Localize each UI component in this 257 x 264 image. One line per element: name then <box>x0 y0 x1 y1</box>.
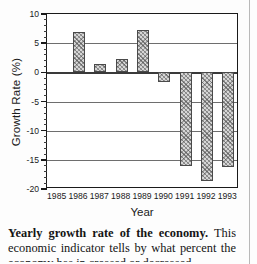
y-axis-minor-tick <box>44 165 48 166</box>
y-axis-minor-tick <box>44 183 48 184</box>
x-axis-tick-label: 1987 <box>90 191 109 201</box>
y-axis-minor-tick <box>44 154 48 155</box>
y-axis-minor-tick <box>44 136 48 137</box>
bar <box>94 64 106 73</box>
y-axis-minor-tick <box>44 84 48 85</box>
y-axis-tick <box>41 13 47 14</box>
figure-caption: Yearly growth rate of the economy. This … <box>8 226 236 262</box>
y-axis-tick <box>41 101 47 102</box>
y-axis-minor-tick <box>44 177 48 178</box>
bar <box>137 30 149 73</box>
y-axis-title: Growth Rate (%) <box>10 37 22 167</box>
y-axis-tick <box>41 130 47 131</box>
y-axis-minor-tick <box>44 148 48 149</box>
bar <box>222 72 234 167</box>
y-axis-minor-tick <box>44 124 48 125</box>
x-axis-tick-label: 1985 <box>47 191 66 201</box>
y-axis-minor-tick <box>44 142 48 143</box>
y-axis-tick-label: 0 <box>34 67 39 77</box>
y-axis-minor-tick <box>44 95 48 96</box>
y-axis-minor-tick <box>44 49 48 50</box>
x-axis-tick-label: 1991 <box>175 191 194 201</box>
caption-title: Yearly growth rate of the economy. <box>8 226 208 240</box>
y-axis-tick-label: 10 <box>29 9 39 19</box>
y-axis-minor-tick <box>44 78 48 79</box>
y-axis-minor-tick <box>44 107 48 108</box>
bar <box>116 59 128 72</box>
bar-chart: Growth Rate (%) 1050-5-10-15-20 19851986… <box>0 0 250 222</box>
y-axis-tick <box>41 188 47 189</box>
y-axis-minor-tick <box>44 19 48 20</box>
y-axis-minor-tick <box>44 60 48 61</box>
y-axis-tick <box>41 42 47 43</box>
x-axis-tick-label: 1986 <box>68 191 87 201</box>
y-axis-tick-label: -20 <box>27 184 39 194</box>
y-axis-minor-tick <box>44 66 48 67</box>
y-axis-tick <box>41 159 47 160</box>
bar <box>201 72 213 181</box>
y-axis-minor-tick <box>44 119 48 120</box>
x-axis-tick-label: 1989 <box>132 191 151 201</box>
x-axis-tick-label: 1990 <box>154 191 173 201</box>
x-axis-tick-label: 1992 <box>196 191 215 201</box>
y-axis-minor-tick <box>44 37 48 38</box>
y-axis-minor-tick <box>44 31 48 32</box>
y-axis-minor-tick <box>44 25 48 26</box>
bar <box>73 32 85 73</box>
bar <box>180 72 192 165</box>
y-axis-minor-tick <box>44 171 48 172</box>
bar <box>158 72 170 82</box>
y-axis-tick-label: -5 <box>31 97 39 107</box>
y-axis-minor-tick <box>44 89 48 90</box>
x-axis-tick-label: 1993 <box>218 191 237 201</box>
figure-page: Growth Rate (%) 1050-5-10-15-20 19851986… <box>0 0 257 264</box>
y-axis-tick-label: -10 <box>27 126 39 136</box>
plot-area: 1050-5-10-15-20 <box>46 13 238 188</box>
x-axis-tick-label: 1988 <box>111 191 130 201</box>
y-axis-minor-tick <box>44 54 48 55</box>
y-axis-minor-tick <box>44 113 48 114</box>
y-axis-tick-label: 5 <box>34 38 39 48</box>
y-axis-tick <box>41 72 47 73</box>
x-axis-title: Year <box>46 206 238 218</box>
x-axis-tick-labels: 198519861987198819891990199119921993 <box>46 191 238 205</box>
y-axis-tick-label: -15 <box>27 155 39 165</box>
